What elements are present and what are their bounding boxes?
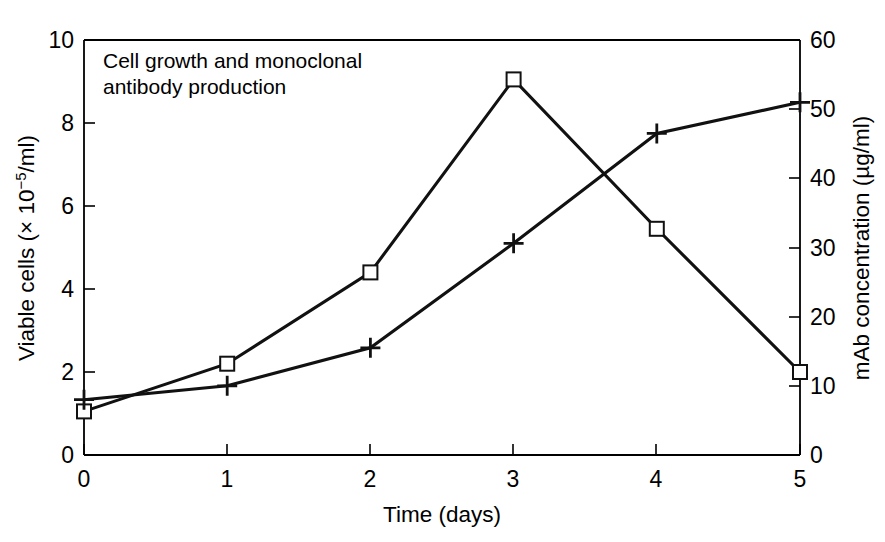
left-tick-label-0: 0 — [61, 442, 74, 468]
data-point-square-day-5 — [793, 365, 807, 379]
right-tick-label-30: 30 — [810, 235, 836, 261]
axes-frame — [84, 40, 800, 455]
series-line-2 — [84, 102, 800, 399]
data-point-square-day-2 — [363, 265, 377, 279]
series-layer — [74, 72, 810, 418]
left-axis-title-exponent: −5 — [12, 172, 29, 189]
line-chart-svg: 0 2 4 6 8 10 0 10 20 30 40 50 60 — [0, 0, 885, 542]
x-tick-label-2: 2 — [364, 466, 377, 492]
series-line-1 — [84, 79, 800, 411]
chart-title-line-1: Cell growth and monoclonal — [103, 49, 362, 72]
left-tick-label-2: 2 — [61, 359, 74, 385]
chart-title: Cell growth and monoclonal antibody prod… — [103, 49, 362, 98]
left-tick-label-6: 6 — [61, 193, 74, 219]
left-axis-title-prefix: Viable cells (× 10 — [14, 190, 39, 362]
series-2-plus — [74, 92, 810, 409]
left-tick-label-10: 10 — [48, 27, 74, 53]
x-tick-label-3: 3 — [507, 466, 520, 492]
x-tick-label-1: 1 — [221, 466, 234, 492]
left-axis-title-suffix: /ml) — [14, 135, 39, 173]
data-point-square-day-3 — [507, 72, 521, 86]
left-tick-label-4: 4 — [61, 276, 74, 302]
right-axis-tick-labels: 0 10 20 30 40 50 60 — [810, 27, 836, 468]
data-point-square-day-1 — [220, 357, 234, 371]
x-axis-ticks — [84, 444, 800, 455]
chart-figure: 0 2 4 6 8 10 0 10 20 30 40 50 60 — [0, 0, 885, 542]
svg-text:mAb concentration (µg/ml): mAb concentration (µg/ml) — [849, 116, 874, 380]
right-tick-label-60: 60 — [810, 27, 836, 53]
x-axis-title: Time (days) — [383, 502, 501, 527]
right-axis-title: mAb concentration (µg/ml) — [849, 116, 874, 380]
x-tick-label-5: 5 — [794, 466, 807, 492]
left-axis-tick-labels: 0 2 4 6 8 10 — [48, 27, 74, 468]
right-tick-label-0: 0 — [810, 442, 823, 468]
right-tick-label-20: 20 — [810, 304, 836, 330]
x-tick-label-4: 4 — [650, 466, 663, 492]
axis-top-left-bottom-right — [84, 40, 800, 455]
left-tick-label-8: 8 — [61, 110, 74, 136]
x-tick-label-0: 0 — [78, 466, 91, 492]
data-point-plus-day-1 — [217, 376, 237, 396]
left-axis-ticks — [84, 40, 95, 455]
data-point-square-day-4 — [650, 222, 664, 236]
right-tick-label-10: 10 — [810, 373, 836, 399]
right-tick-label-40: 40 — [810, 165, 836, 191]
x-axis-tick-labels: 0 1 2 3 4 5 — [78, 466, 807, 492]
svg-text:Viable cells (× 10−5/ml): Viable cells (× 10−5/ml) — [12, 135, 39, 361]
left-axis-title: Viable cells (× 10−5/ml) — [12, 135, 39, 361]
right-tick-label-50: 50 — [810, 96, 836, 122]
chart-title-line-2: antibody production — [103, 75, 286, 98]
